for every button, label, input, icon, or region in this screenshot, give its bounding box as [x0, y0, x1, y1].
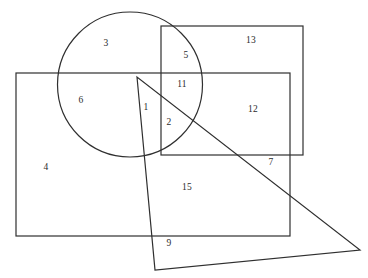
diagram-canvas: 3 5 13 11 6 1 12 2 7 4 15 9: [0, 0, 368, 278]
region-label-12: 12: [248, 105, 258, 115]
figure-svg: [0, 0, 368, 278]
region-label-3: 3: [104, 39, 109, 49]
region-label-9: 9: [167, 239, 172, 249]
region-label-13: 13: [246, 36, 256, 46]
region-label-2: 2: [167, 118, 172, 128]
region-label-5: 5: [184, 51, 189, 61]
upper-right-rectangle: [161, 26, 303, 155]
region-label-11: 11: [177, 80, 187, 90]
region-label-6: 6: [79, 96, 84, 106]
region-label-15: 15: [182, 183, 192, 193]
region-label-1: 1: [144, 103, 149, 113]
region-label-4: 4: [44, 163, 49, 173]
region-label-7: 7: [269, 158, 274, 168]
